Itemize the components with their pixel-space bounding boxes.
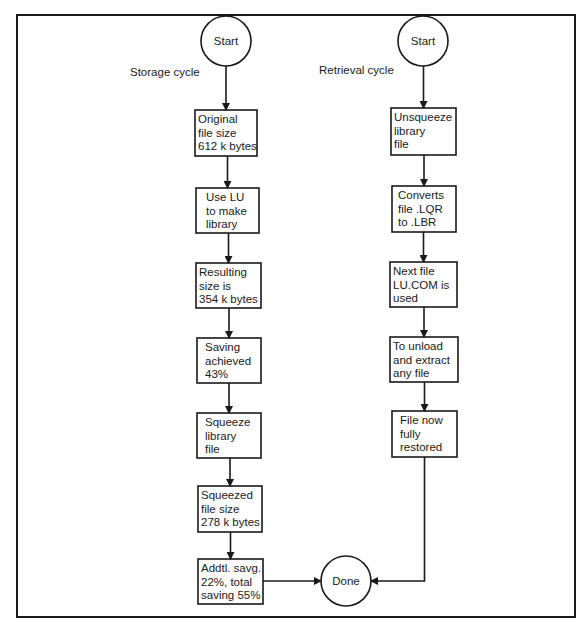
retrieval-start-label: Start (411, 35, 436, 47)
done-node: Done (321, 556, 371, 606)
retrieval-step-text: file (394, 138, 409, 150)
storage-step-box: Savingachieved43% (197, 338, 261, 383)
storage-step-text: 354 k bytes (199, 293, 258, 305)
storage-step-text: saving 55% (201, 589, 260, 601)
storage-step-box: Squeezedfile size278 k bytes (198, 486, 262, 532)
storage-step-text: 612 k bytes (198, 140, 257, 152)
retrieval-step-text: LU.COM is (393, 279, 449, 291)
done-label: Done (332, 575, 360, 587)
retrieval-step-text: restored (400, 441, 442, 453)
retrieval-step-text: library (394, 125, 426, 137)
storage-step-text: 43% (205, 368, 228, 380)
retrieval-step-text: File now (400, 414, 444, 426)
storage-start-node: Start (201, 16, 251, 66)
flowchart: Storage cycle Retrieval cycle StartOrigi… (0, 0, 586, 629)
storage-step-box: Resultingsize is354 k bytes (196, 263, 261, 308)
retrieval-step-text: Next file (393, 265, 435, 277)
storage-step-text: 22%, total (201, 576, 252, 588)
storage-step-text: 278 k bytes (201, 516, 260, 528)
storage-step-box: Use LUto makelibrary (196, 188, 259, 233)
storage-step-box: Squeezelibraryfile (197, 413, 261, 458)
retrieval-cycle-label: Retrieval cycle (319, 64, 394, 76)
storage-step-text: file size (201, 503, 239, 515)
retrieval-step-text: fully (400, 428, 421, 440)
storage-step-text: Saving (205, 341, 240, 353)
retrieval-step-box: Next fileLU.COM isused (390, 262, 457, 307)
storage-step-text: Use LU (206, 191, 244, 203)
storage-step-text: file size (198, 127, 236, 139)
retrieval-step-box: File nowfullyrestored (392, 411, 457, 457)
retrieval-step-text: To unload (393, 340, 443, 352)
storage-step-text: achieved (205, 355, 251, 367)
storage-step-text: Addtl. savg. (201, 562, 261, 574)
storage-cycle-label: Storage cycle (130, 66, 200, 78)
retrieval-step-text: Unsqueeze (394, 111, 452, 123)
retrieval-step-text: used (393, 292, 418, 304)
retrieval-step-box: To unloadand extractany file (390, 337, 458, 382)
retrieval-start-node: Start (398, 16, 448, 66)
storage-step-box: Addtl. savg.22%, totalsaving 55% (198, 559, 263, 604)
retrieval-step-text: to .LBR (398, 216, 436, 228)
storage-step-text: file (205, 443, 220, 455)
storage-step-box: Originalfile size612 k bytes (195, 110, 257, 156)
storage-step-text: library (206, 218, 238, 230)
storage-step-text: size is (199, 280, 231, 292)
retrieval-step-text: Converts (398, 189, 444, 201)
retrieval-step-text: file .LQR (398, 203, 443, 215)
storage-step-text: Squeezed (201, 489, 253, 501)
storage-step-text: library (205, 430, 237, 442)
retrieval-step-box: Unsqueezelibraryfile (391, 108, 456, 155)
storage-step-text: to make (206, 205, 247, 217)
storage-step-text: Squeeze (205, 416, 250, 428)
retrieval-step-text: any file (393, 367, 429, 379)
retrieval-step-box: Convertsfile .LQRto .LBR (392, 186, 456, 232)
storage-step-text: Original (198, 113, 238, 125)
retrieval-to-done-arrow (371, 457, 425, 581)
storage-step-text: Resulting (199, 266, 247, 278)
retrieval-step-text: and extract (393, 354, 451, 366)
storage-start-label: Start (214, 35, 239, 47)
